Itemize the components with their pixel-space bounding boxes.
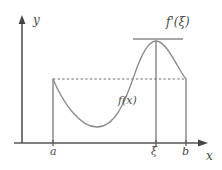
tangent-label-f-prime-xi: f'(ξ)	[166, 16, 190, 28]
x-axis-label: x	[206, 150, 213, 162]
y-axis-group	[19, 15, 26, 143]
y-axis-arrow-icon	[19, 15, 26, 24]
y-axis-label: y	[33, 14, 40, 26]
x-axis-arrow-icon	[198, 139, 208, 146]
x-axis-group	[14, 139, 208, 146]
figure-container: y x a ξ b f(x) f'(ξ)	[0, 0, 222, 170]
x-tick-label-a: a	[50, 146, 57, 157]
x-tick-label-xi: ξ	[151, 146, 157, 157]
function-curve	[53, 41, 186, 127]
curve-label-fx: f(x)	[118, 95, 137, 106]
x-tick-label-b: b	[182, 146, 189, 157]
